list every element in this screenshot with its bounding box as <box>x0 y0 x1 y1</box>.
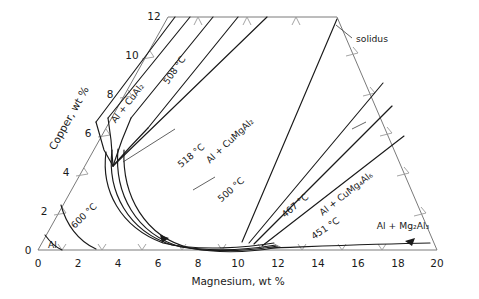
x-axis-title: Magnesium, wt % <box>191 275 284 287</box>
boundary-f1 <box>96 17 175 122</box>
phase-diagram-svg: 0 2 4 6 8 10 12 14 16 18 20 0 2 4 6 8 10… <box>0 0 479 299</box>
region-label-al-cumg4al6: Al + CuMg₄Al₆ <box>317 169 375 218</box>
y-tick-10: 10 <box>125 49 138 61</box>
x-tick-18: 18 <box>391 257 404 269</box>
y-tick-8: 8 <box>107 88 114 100</box>
annotation-solidus: solidus <box>356 33 388 44</box>
y-tick-4: 4 <box>63 166 70 178</box>
arrow-marker-right <box>405 238 415 246</box>
boundary-bottom-right <box>268 243 430 248</box>
isotherm-label-500: 500 °C <box>215 175 246 204</box>
leader-solidus <box>336 25 352 38</box>
boundary-c2 <box>111 150 276 250</box>
y-tick-6: 6 <box>85 127 92 139</box>
boundary-c1 <box>105 152 274 248</box>
y-axis-ticks <box>54 51 154 215</box>
x-tick-14: 14 <box>311 257 325 269</box>
y-tick-labels: 0 2 4 6 8 10 12 <box>25 10 161 256</box>
y-tick-0: 0 <box>25 244 32 256</box>
y-tick-2: 2 <box>41 205 48 217</box>
region-label-al-mg2al3: Al + Mg₂Al₃ <box>377 220 430 231</box>
x-tick-10: 10 <box>231 257 244 269</box>
leader-lines <box>123 25 366 190</box>
region-label-al-cual2: Al + CuAl₂ <box>108 81 146 125</box>
boundary-f4 <box>148 17 238 128</box>
x-tick-6: 6 <box>155 257 162 269</box>
boundary-467 <box>249 83 383 243</box>
leader-500 <box>193 177 215 190</box>
x-tick-20: 20 <box>430 257 443 269</box>
y-tick-12: 12 <box>147 10 160 22</box>
boundary-c4 <box>124 150 280 252</box>
boundary-c3 <box>118 149 278 251</box>
isotherm-label-508: 508 °C <box>161 54 188 86</box>
x-tick-2: 2 <box>75 257 82 269</box>
x-tick-12: 12 <box>271 257 284 269</box>
x-tick-labels: 0 2 4 6 8 10 12 14 16 18 20 <box>35 257 444 269</box>
leader-cumg4al6 <box>352 122 366 129</box>
isotherm-label-518: 518 °C <box>175 141 206 170</box>
isotherm-label-467: 467 °C <box>279 191 310 220</box>
x-tick-8: 8 <box>195 257 202 269</box>
region-label-al: Al <box>48 239 57 250</box>
x-tick-0: 0 <box>35 257 42 269</box>
isotherm-label-600: 600 °C <box>68 201 98 231</box>
x-tick-4: 4 <box>115 257 122 269</box>
region-label-al-cumgal2: Al + CuMgAl₂ <box>204 115 256 165</box>
x-axis-ticks <box>58 244 386 250</box>
isotherm-label-451: 451 °C <box>309 215 341 242</box>
figure-container: 0 2 4 6 8 10 12 14 16 18 20 0 2 4 6 8 10… <box>0 0 479 299</box>
boundary-node-a <box>96 122 113 166</box>
right-edge-line <box>337 17 437 250</box>
y-axis-title: Copper, wt % <box>46 84 91 152</box>
x-tick-16: 16 <box>351 257 365 269</box>
